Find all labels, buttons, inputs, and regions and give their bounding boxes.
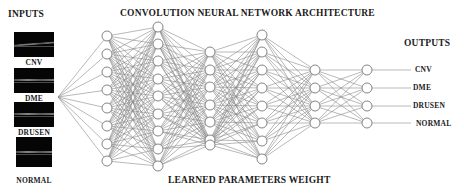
hidden-node	[102, 156, 112, 166]
weight-connection	[210, 35, 262, 140]
output-label-normal: NORMAL	[416, 119, 451, 128]
hidden-node	[257, 30, 267, 40]
weight-connection	[262, 123, 315, 141]
weight-connection	[107, 44, 158, 54]
hidden-node	[205, 47, 215, 57]
hidden-node	[205, 65, 215, 75]
input-image-dme	[14, 68, 54, 93]
hidden-node	[102, 85, 112, 95]
hidden-node	[153, 22, 163, 32]
input-label-cnv: CNV	[26, 58, 43, 67]
diagram-title: CONVOLUTION NEURAL NETWORK ARCHITECTURE	[120, 8, 375, 18]
weight-connection	[210, 52, 262, 145]
hidden-node	[257, 154, 267, 164]
input-image-drusen	[14, 102, 54, 127]
hidden-node	[310, 65, 320, 75]
output-label-dme: DME	[413, 83, 431, 92]
hidden-node	[102, 49, 112, 59]
weight-connection	[107, 27, 158, 54]
output-label-drusen: DRUSEN	[413, 101, 445, 110]
input-label-drusen: DRUSEN	[18, 128, 50, 137]
weight-connection	[262, 70, 315, 159]
hidden-node	[257, 83, 267, 93]
weight-connection	[262, 52, 315, 123]
weight-connection	[107, 161, 158, 166]
hidden-node	[102, 67, 112, 77]
weight-connection	[158, 52, 210, 149]
hidden-node	[102, 103, 112, 113]
hidden-node	[257, 118, 267, 128]
weight-connection	[262, 70, 315, 141]
weight-connection	[262, 123, 315, 159]
hidden-node	[153, 126, 163, 136]
hidden-node	[205, 82, 215, 92]
hidden-node	[102, 31, 112, 41]
output-node	[362, 83, 372, 93]
weight-connection	[107, 27, 158, 161]
hidden-node	[257, 136, 267, 146]
weight-connection	[158, 87, 210, 166]
weight-connection	[107, 27, 158, 36]
hidden-node	[153, 91, 163, 101]
hidden-node	[153, 161, 163, 171]
hidden-node	[153, 144, 163, 154]
input-label-normal: NORMAL	[16, 176, 51, 185]
hidden-node	[205, 140, 215, 150]
weight-connection	[210, 35, 262, 122]
hidden-node	[153, 74, 163, 84]
output-node	[362, 101, 372, 111]
weight-connection	[210, 145, 262, 159]
hidden-node	[310, 101, 320, 111]
hidden-node	[205, 100, 215, 110]
weight-connection	[158, 140, 210, 149]
input-image-normal	[16, 137, 52, 167]
input-image-cnv	[14, 32, 54, 57]
footer-caption: LEARNED PARAMETERS WEIGHT	[168, 175, 330, 185]
hidden-node	[153, 56, 163, 66]
hidden-node	[257, 47, 267, 57]
hidden-node	[102, 139, 112, 149]
weight-connection	[262, 88, 315, 159]
weight-connection	[262, 35, 315, 106]
hidden-node	[257, 101, 267, 111]
hidden-node	[153, 109, 163, 119]
weight-connection	[210, 35, 262, 52]
input-connection	[58, 97, 107, 126]
weight-connection	[262, 35, 315, 88]
inputs-heading: INPUTS	[8, 9, 44, 19]
output-node	[362, 118, 372, 128]
weight-connection	[262, 52, 315, 70]
output-label-cnv: CNV	[415, 65, 432, 74]
outputs-heading: OUTPUTS	[404, 38, 450, 48]
input-connection	[58, 36, 107, 97]
hidden-node	[257, 65, 267, 75]
hidden-node	[205, 117, 215, 127]
neural-network-graph	[0, 0, 464, 196]
hidden-node	[310, 83, 320, 93]
hidden-node	[102, 121, 112, 131]
weight-connection	[158, 52, 210, 131]
hidden-node	[153, 39, 163, 49]
weight-connection	[262, 35, 315, 70]
hidden-node	[310, 118, 320, 128]
input-connection	[58, 97, 107, 144]
output-node	[362, 65, 372, 75]
